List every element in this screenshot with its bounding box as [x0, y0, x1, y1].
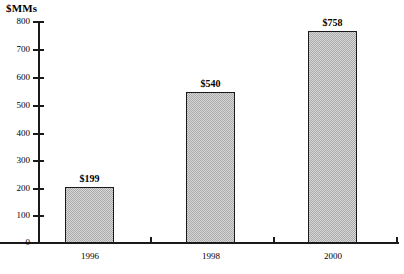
y-tick-label-800: 800	[2, 17, 30, 26]
plot-area: 800 700 600 500 400 300 200 100 0 $199 $…	[0, 0, 404, 274]
y-tick-label-100: 100	[2, 211, 30, 220]
y-tick-0	[33, 242, 44, 244]
x-tick-1	[150, 237, 152, 244]
y-tick-200	[33, 188, 44, 190]
y-tick-400	[33, 133, 44, 135]
y-tick-100	[33, 215, 44, 217]
y-tick-label-400: 400	[2, 129, 30, 138]
y-tick-label-300: 300	[2, 156, 30, 165]
bar-value-label-2000: $758	[308, 18, 357, 28]
bar-value-label-1998: $540	[186, 79, 235, 89]
x-tick-2	[273, 237, 275, 244]
y-tick-label-700: 700	[2, 45, 30, 54]
bar-value-label-1996: $199	[65, 174, 114, 184]
x-category-label-1996: 1996	[64, 252, 116, 261]
y-tick-label-600: 600	[2, 73, 30, 82]
y-tick-800	[33, 21, 44, 23]
bar-2000[interactable]	[308, 31, 357, 243]
y-tick-label-0: 0	[2, 238, 30, 247]
bar-1996[interactable]	[65, 187, 114, 243]
y-tick-500	[33, 105, 44, 107]
bar-1998[interactable]	[186, 92, 235, 243]
bar-chart: $MMs 800 700 600 500 400 300 200 100 0	[0, 0, 404, 274]
x-category-label-2000: 2000	[307, 252, 359, 261]
x-tick-3	[396, 237, 398, 244]
y-tick-700	[33, 49, 44, 51]
y-tick-300	[33, 160, 44, 162]
x-category-label-1998: 1998	[185, 252, 237, 261]
y-tick-600	[33, 77, 44, 79]
y-tick-label-500: 500	[2, 101, 30, 110]
y-tick-label-200: 200	[2, 184, 30, 193]
